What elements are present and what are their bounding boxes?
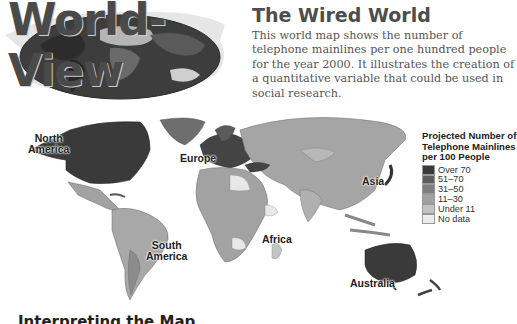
- legend-item: No data: [422, 214, 517, 224]
- region-label-australia: Australia: [350, 278, 395, 289]
- interpreting-heading: Interpreting the Map: [18, 313, 195, 324]
- legend-item: Under 11: [422, 204, 517, 214]
- legend-items: Over 70 51–70 31–50 11–30 Under 11 No da…: [422, 165, 517, 224]
- region-label-south-america: South America: [146, 240, 187, 262]
- section-title: The Wired World: [252, 4, 431, 26]
- legend-item: Over 70: [422, 165, 517, 175]
- region-label-north-america: North America: [28, 133, 69, 155]
- legend-swatch: [422, 165, 435, 175]
- region-label-europe: Europe: [180, 153, 216, 164]
- legend-swatch: [422, 184, 435, 194]
- legend-swatch: [422, 194, 435, 204]
- banner-title: World-View: [8, 0, 250, 96]
- intro-paragraph: This world map shows the number of telep…: [252, 29, 517, 101]
- legend-item: 51–70: [422, 175, 517, 185]
- legend-swatch: [422, 204, 435, 214]
- legend-swatch: [422, 175, 435, 185]
- legend-swatch: [422, 214, 435, 224]
- map-legend: Projected Number of Telephone Mainlines …: [422, 131, 517, 224]
- region-label-africa: Africa: [262, 234, 292, 245]
- legend-item: 11–30: [422, 194, 517, 204]
- legend-title: Projected Number of Telephone Mainlines …: [422, 131, 517, 163]
- legend-item: 31–50: [422, 184, 517, 194]
- region-label-asia: Asia: [362, 176, 384, 187]
- world-view-banner: World-View: [0, 0, 250, 100]
